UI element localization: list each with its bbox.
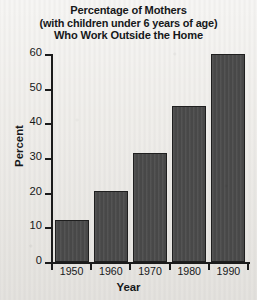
y-tick-label: 50	[30, 81, 42, 93]
x-tick	[208, 263, 210, 270]
chart-title-line-2: (with children under 6 years of age)	[0, 17, 257, 30]
x-tick	[169, 263, 171, 270]
chart-title: Percentage of Mothers (with children und…	[0, 4, 257, 42]
y-tick-label: 10	[30, 219, 42, 231]
y-axis-label: Percent	[13, 111, 25, 181]
bar-1970	[133, 153, 167, 262]
y-tick-label: 20	[30, 185, 42, 197]
y-tick: 20	[45, 193, 52, 195]
y-tick: 40	[45, 123, 52, 125]
y-tick: 30	[45, 158, 52, 160]
x-tick-label-1960: 1960	[99, 265, 123, 277]
plot-area: 0102030405060 19501960197019801990	[52, 55, 248, 263]
x-tick-label-1950: 1950	[60, 265, 84, 277]
bar-1960	[94, 191, 128, 262]
y-tick: 60	[45, 54, 52, 56]
x-tick	[247, 263, 249, 270]
x-tick-label-1970: 1970	[138, 265, 162, 277]
x-tick	[90, 263, 92, 270]
y-tick-label: 60	[30, 46, 42, 58]
x-tick-label-1980: 1980	[177, 265, 201, 277]
y-tick-label: 0	[36, 254, 42, 266]
chart-title-line-3: Who Work Outside the Home	[0, 29, 257, 42]
x-axis-spine	[51, 262, 250, 264]
bar-chart-figure: Percentage of Mothers (with children und…	[0, 0, 257, 300]
x-tick	[51, 263, 53, 270]
x-tick	[129, 263, 131, 270]
chart-title-line-1: Percentage of Mothers	[0, 4, 257, 17]
y-tick-label: 30	[30, 150, 42, 162]
y-tick-label: 40	[30, 115, 42, 127]
bar-1990	[211, 54, 245, 262]
x-tick-label-1990: 1990	[217, 265, 241, 277]
y-tick: 10	[45, 227, 52, 229]
y-tick: 50	[45, 89, 52, 91]
bar-1980	[172, 106, 206, 262]
bar-1950	[55, 220, 89, 262]
x-axis-label: Year	[0, 281, 257, 293]
